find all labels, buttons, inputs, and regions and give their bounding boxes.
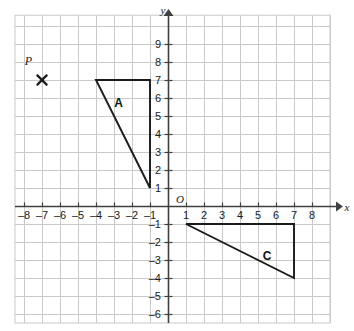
coordinate-grid-figure: –8–7–6–5–4–3–2–112345678987654321–1–2–3–… <box>0 0 354 331</box>
point-p-label: P <box>24 54 33 68</box>
coordinate-plane-svg: –8–7–6–5–4–3–2–112345678987654321–1–2–3–… <box>0 0 354 331</box>
x-axis-tick-label: 3 <box>219 209 225 221</box>
shape-c-label: C <box>263 249 272 263</box>
x-axis-tick-label: 2 <box>201 209 207 221</box>
y-axis-label: y <box>160 4 166 16</box>
x-axis-tick-label: –4 <box>90 209 102 221</box>
x-axis-tick-label: –5 <box>72 209 84 221</box>
x-axis-label: x <box>344 201 350 213</box>
grid-lines <box>15 15 331 323</box>
x-axis-tick-label: 1 <box>183 209 189 221</box>
x-axis-tick-label: –8 <box>18 209 30 221</box>
x-axis-tick-label: 5 <box>255 209 261 221</box>
x-axis-arrow-icon <box>336 202 343 212</box>
y-axis-tick-label: –6 <box>149 308 161 320</box>
y-axis-tick-label: –2 <box>149 236 161 248</box>
y-axis-tick-label: 7 <box>155 74 161 86</box>
x-axis-tick-label: 6 <box>273 209 279 221</box>
y-axis-tick-label: 4 <box>155 128 161 140</box>
y-axis-tick-label: –1 <box>149 218 161 230</box>
y-axis-tick-label: –4 <box>149 272 161 284</box>
x-axis-tick-label: –7 <box>36 209 48 221</box>
y-axis-tick-label: 8 <box>155 56 161 68</box>
y-axis-tick-label: 9 <box>155 38 161 50</box>
x-axis-tick-label: –6 <box>54 209 66 221</box>
y-axis-tick-label: 3 <box>155 146 161 158</box>
x-axis-tick-label: –3 <box>108 209 120 221</box>
y-axis-tick-label: –5 <box>149 290 161 302</box>
origin-label: O <box>176 193 184 205</box>
y-axis-tick-label: 1 <box>155 182 161 194</box>
x-axis-tick-label: 7 <box>291 209 297 221</box>
y-axis-tick-label: 6 <box>155 92 161 104</box>
x-axis-tick-label: 8 <box>309 209 315 221</box>
x-axis-tick-label: –2 <box>126 209 138 221</box>
y-axis-tick-label: –3 <box>149 254 161 266</box>
x-axis-tick-label: 4 <box>237 209 243 221</box>
shape-a-label: A <box>114 96 123 110</box>
y-axis-tick-label: 5 <box>155 110 161 122</box>
y-axis-tick-label: 2 <box>155 164 161 176</box>
grid-border <box>15 15 330 323</box>
